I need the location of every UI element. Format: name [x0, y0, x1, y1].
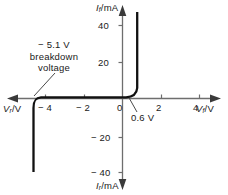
zener-iv-characteristic-figure: If/mA Ir/mA Vr/V Vf/V − 4 − 2 0 2 4 40 2… — [0, 0, 228, 195]
x-axis-left-arrow — [7, 95, 18, 103]
x-axis-right-label: Vf/V — [196, 103, 214, 116]
x-tick-label-minus4: − 4 — [38, 102, 52, 113]
x-tick-label-zero: 0 — [117, 102, 122, 113]
x-tick-label-2: 2 — [156, 102, 161, 113]
x-axis-left-label: Vr/V — [3, 103, 21, 116]
y-tick-label-minus20: − 20 — [91, 132, 111, 143]
x-tick-label-minus2: − 2 — [76, 102, 90, 113]
forward-knee-annotation: 0.6 V — [131, 112, 154, 123]
y-axis-bottom-arrow — [119, 179, 127, 190]
y-axis-top-arrow — [119, 5, 127, 16]
breakdown-value-text: − 5.1 V — [18, 39, 90, 51]
y-tick-label-minus40: − 40 — [91, 167, 111, 178]
chart-canvas — [0, 0, 228, 195]
breakdown-leader-line — [34, 73, 55, 96]
breakdown-voltage-annotation: − 5.1 V breakdown voltage — [18, 39, 90, 74]
iv-curve — [34, 12, 138, 172]
y-axis-bottom-label: Ir/mA — [96, 180, 119, 193]
y-axis-top-label: If/mA — [96, 2, 118, 15]
x-axis-right-arrow — [210, 95, 221, 103]
breakdown-word-text: breakdown — [18, 51, 90, 63]
y-tick-label-20: 20 — [98, 57, 109, 68]
voltage-word-text: voltage — [18, 62, 90, 74]
x-tick-label-4: 4 — [193, 102, 198, 113]
y-tick-label-40: 40 — [98, 20, 109, 31]
